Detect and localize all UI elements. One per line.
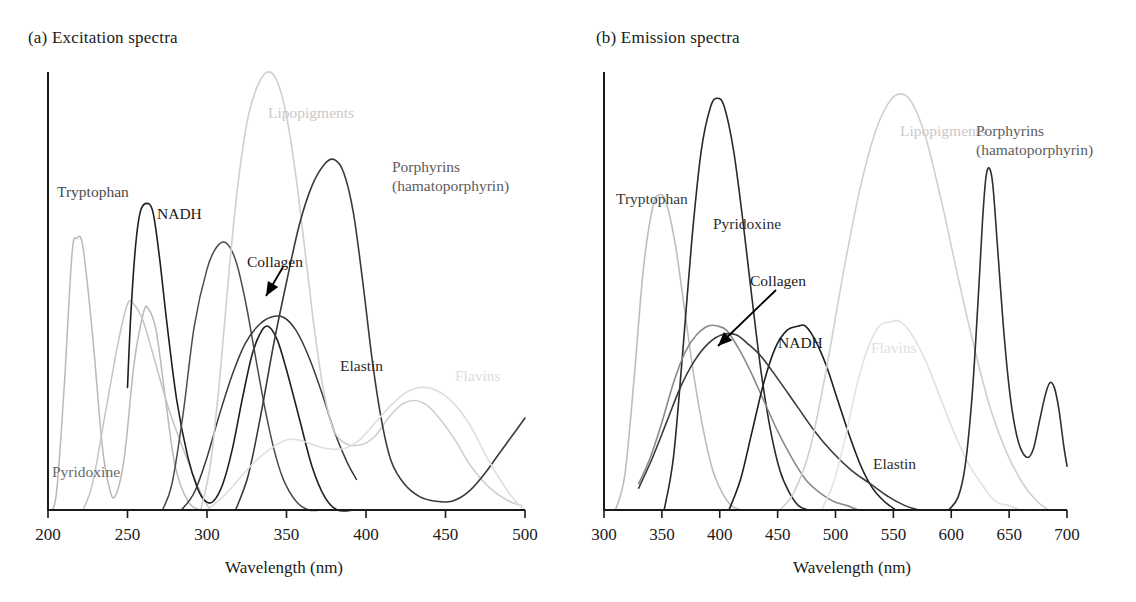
label-lipopigments: Lipopigments bbox=[268, 104, 354, 121]
label-porphyrins-sub: (hamatoporphyrin) bbox=[392, 177, 509, 194]
x-tick-label: 450 bbox=[765, 525, 791, 544]
curve-flavins-b bbox=[822, 321, 1021, 510]
panel-emission: (b) Emission spectra30035040045050055060… bbox=[568, 0, 1136, 602]
x-axis-label: Wavelength (nm) bbox=[0, 558, 568, 578]
x-tick-label: 600 bbox=[939, 525, 965, 544]
label-porphyrins-sub: (hamatoporphyrin) bbox=[976, 141, 1093, 158]
label-nadh: NADH bbox=[157, 205, 202, 222]
curve-porphyrins-a bbox=[236, 159, 525, 510]
x-tick-label: 550 bbox=[881, 525, 907, 544]
label-tryptophan: Tryptophan bbox=[57, 183, 129, 200]
curve-collagen-b bbox=[639, 325, 859, 510]
x-tick-label: 700 bbox=[1054, 525, 1080, 544]
x-tick-label: 400 bbox=[707, 525, 733, 544]
curve-lipopigments-a bbox=[201, 72, 522, 510]
curve-elastin-b bbox=[639, 334, 919, 510]
label-tryptophan: Tryptophan bbox=[616, 190, 688, 207]
spectra-plot: 300350400450500550600650700 bbox=[568, 0, 1136, 602]
label-collagen: Collagen bbox=[247, 253, 303, 270]
x-tick-label: 300 bbox=[591, 525, 617, 544]
panel-excitation: (a) Excitation spectra200250300350400450… bbox=[0, 0, 568, 602]
label-nadh: NADH bbox=[778, 334, 823, 351]
curve-nadh-a bbox=[128, 203, 354, 511]
x-tick-label: 650 bbox=[996, 525, 1022, 544]
label-porphyrins: Porphyrins bbox=[976, 122, 1044, 139]
x-tick-label: 250 bbox=[115, 525, 141, 544]
x-tick-label: 200 bbox=[35, 525, 61, 544]
x-tick-label: 400 bbox=[353, 525, 379, 544]
label-flavins: Flavins bbox=[455, 367, 501, 384]
x-axis-label: Wavelength (nm) bbox=[568, 558, 1136, 578]
label-porphyrins: Porphyrins bbox=[392, 158, 460, 175]
x-tick-label: 300 bbox=[194, 525, 220, 544]
x-tick-label: 350 bbox=[649, 525, 675, 544]
curve-collagen-a bbox=[162, 242, 321, 511]
spectra-plot: 200250300350400450500 bbox=[0, 0, 568, 602]
label-lipopigments: Lipopigments bbox=[900, 122, 986, 139]
x-tick-label: 500 bbox=[823, 525, 849, 544]
curve-tryptophan-b bbox=[616, 194, 741, 510]
label-pyridoxine: Pyridoxine bbox=[713, 215, 781, 232]
axis-lines bbox=[48, 72, 525, 510]
label-collagen: Collagen bbox=[750, 272, 806, 289]
collagen-arrow bbox=[718, 290, 776, 346]
x-tick-label: 350 bbox=[274, 525, 300, 544]
label-pyridoxine: Pyridoxine bbox=[52, 463, 120, 480]
fluorescence-spectra-figure: (a) Excitation spectra200250300350400450… bbox=[0, 0, 1136, 602]
x-tick-label: 450 bbox=[433, 525, 459, 544]
label-elastin: Elastin bbox=[873, 455, 916, 472]
x-tick-label: 500 bbox=[512, 525, 538, 544]
label-elastin: Elastin bbox=[340, 357, 383, 374]
label-flavins: Flavins bbox=[871, 339, 917, 356]
curve-porphyrins-b bbox=[949, 168, 1067, 510]
collagen-arrow bbox=[266, 267, 283, 296]
